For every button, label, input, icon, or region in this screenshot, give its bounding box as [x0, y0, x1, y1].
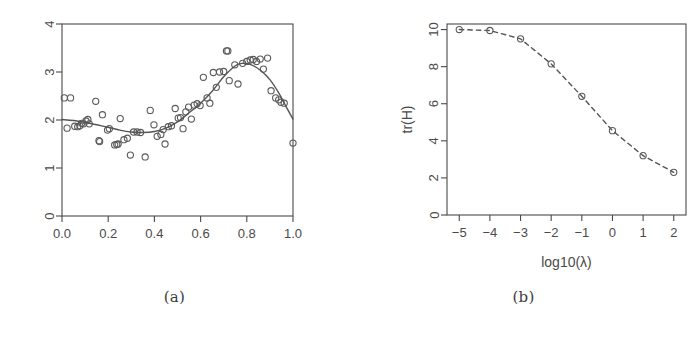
y-tick-label: 1: [42, 164, 57, 171]
x-tick-label: 1: [639, 225, 646, 240]
panel-b-caption: (b): [349, 288, 698, 306]
panel-b-plot-group: −5−4−3−2−10120246810log10(λ)tr(H): [399, 22, 686, 270]
x-tick-label: −5: [452, 225, 467, 240]
data-point-marker: [226, 78, 232, 84]
panel-a-caption: (a): [0, 288, 349, 306]
data-point-marker: [609, 128, 615, 134]
x-tick-label: 0.0: [53, 226, 71, 241]
y-tick-label: 2: [427, 174, 442, 181]
data-point-marker: [151, 122, 157, 128]
plot-frame: [447, 24, 686, 215]
y-tick-label: 0: [42, 212, 57, 219]
data-point-marker: [99, 112, 105, 118]
data-point-marker: [188, 116, 194, 122]
y-tick-label: 0: [427, 211, 442, 218]
data-point-marker: [200, 74, 206, 80]
data-point-marker: [117, 115, 123, 121]
y-tick-label: 2: [42, 116, 57, 123]
x-tick-label: 0.8: [238, 226, 256, 241]
x-tick-label: −1: [574, 225, 589, 240]
panel-b: −5−4−3−2−10120246810log10(λ)tr(H) (b): [349, 0, 698, 340]
dashed-trend-line: [459, 30, 673, 173]
x-tick-label: −4: [482, 225, 497, 240]
data-point-marker: [127, 152, 133, 158]
y-tick-label: 6: [427, 100, 442, 107]
y-tick-label: 10: [427, 22, 442, 36]
data-point-marker: [142, 154, 148, 160]
x-tick-label: 1.0: [284, 226, 302, 241]
line-plot-b: −5−4−3−2−10120246810log10(λ)tr(H): [349, 0, 698, 300]
panel-a: 0.00.20.40.60.81.001234 (a): [0, 0, 349, 340]
data-point-marker: [93, 98, 99, 104]
x-tick-label: 0.6: [192, 226, 210, 241]
data-point-marker: [210, 69, 216, 75]
x-axis-label: log10(λ): [541, 254, 592, 270]
y-tick-label: 4: [427, 137, 442, 144]
data-point-marker: [268, 88, 274, 94]
x-tick-label: 0.2: [99, 226, 117, 241]
data-point-marker: [162, 141, 168, 147]
data-point-marker: [147, 107, 153, 113]
y-axis-label: tr(H): [399, 106, 415, 134]
data-point-marker: [154, 133, 160, 139]
y-tick-label: 3: [42, 68, 57, 75]
x-tick-label: −3: [513, 225, 528, 240]
x-tick-label: 0.4: [145, 226, 163, 241]
plot-frame: [62, 24, 293, 216]
y-tick-label: 8: [427, 63, 442, 70]
x-tick-label: 0: [609, 225, 616, 240]
y-tick-label: 4: [42, 20, 57, 27]
data-point-marker: [207, 100, 213, 106]
x-tick-label: 2: [670, 225, 677, 240]
data-point-marker: [64, 125, 70, 131]
data-point-marker: [180, 126, 186, 132]
data-point-marker: [172, 105, 178, 111]
data-point-marker: [235, 81, 241, 87]
figure-container: 0.00.20.40.60.81.001234 (a) −5−4−3−2−101…: [0, 0, 698, 340]
x-tick-label: −2: [544, 225, 559, 240]
data-point-marker: [264, 55, 270, 61]
data-point-marker: [67, 95, 73, 101]
scatter-plot-a: 0.00.20.40.60.81.001234: [0, 0, 349, 300]
